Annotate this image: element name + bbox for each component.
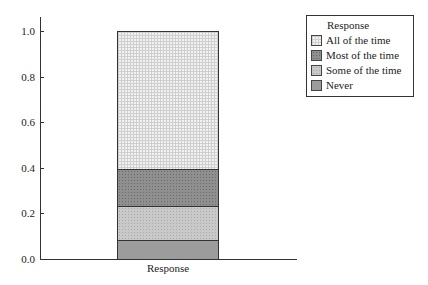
- x-axis-label: Response: [117, 262, 219, 274]
- y-axis-line: [40, 17, 41, 260]
- stacked-bar-response: [117, 31, 219, 260]
- bar-segment-all-of-the-time: [117, 31, 219, 170]
- y-tick-label: 1.0: [5, 25, 35, 37]
- legend-item-some-of-the-time: Some of the time: [311, 63, 401, 77]
- legend-item-most-of-the-time: Most of the time: [311, 48, 399, 62]
- y-tick-label: 0.0: [5, 253, 35, 265]
- legend-swatch-icon: [311, 65, 322, 76]
- y-tick: [40, 213, 44, 214]
- y-tick-label: 0.2: [5, 207, 35, 219]
- y-tick: [40, 31, 44, 32]
- legend-title: Response: [327, 19, 369, 31]
- legend-item-never: Never: [311, 78, 353, 92]
- y-tick-label: 0.6: [5, 116, 35, 128]
- y-tick: [40, 259, 44, 260]
- legend-item-all-of-the-time: All of the time: [311, 33, 390, 47]
- bar-segment-never: [117, 240, 219, 260]
- y-tick: [40, 77, 44, 78]
- y-tick-label: 0.8: [5, 71, 35, 83]
- y-tick: [40, 168, 44, 169]
- legend-swatch-icon: [311, 80, 322, 91]
- bar-segment-some-of-the-time: [117, 206, 219, 241]
- legend: Response All of the time Most of the tim…: [306, 15, 414, 97]
- legend-swatch-icon: [311, 35, 322, 46]
- bar-segment-most-of-the-time: [117, 169, 219, 207]
- legend-swatch-icon: [311, 50, 322, 61]
- y-tick-label: 0.4: [5, 162, 35, 174]
- y-tick: [40, 122, 44, 123]
